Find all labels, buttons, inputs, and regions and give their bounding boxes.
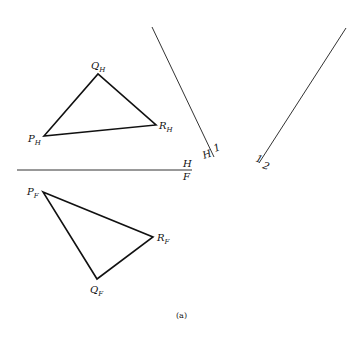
fold-label-h1-1: 1 — [212, 141, 222, 154]
label-r-h: RH — [158, 120, 174, 134]
fold-label-h1-h: H — [200, 147, 213, 161]
label-p-f: PF — [26, 186, 40, 200]
triangle-top-view — [44, 74, 156, 136]
figure-caption: (a) — [176, 311, 187, 320]
fold-line-1-2 — [259, 28, 346, 163]
triangle-front-view — [43, 192, 153, 279]
label-p-h: PH — [27, 133, 42, 147]
fold-label-h-upper: H — [182, 158, 192, 169]
fold-label-f-lower: F — [182, 171, 191, 182]
label-q-h: QH — [91, 60, 106, 74]
descriptive-geometry-diagram: QH PH RH PF RF QF H F H 1 1 2 (a) — [0, 0, 363, 337]
label-r-f: RF — [156, 232, 171, 246]
fold-label-12-1: 1 — [254, 153, 264, 166]
fold-line-h-1 — [152, 27, 214, 157]
fold-label-12-2: 2 — [260, 159, 271, 172]
label-q-f: QF — [90, 284, 104, 298]
